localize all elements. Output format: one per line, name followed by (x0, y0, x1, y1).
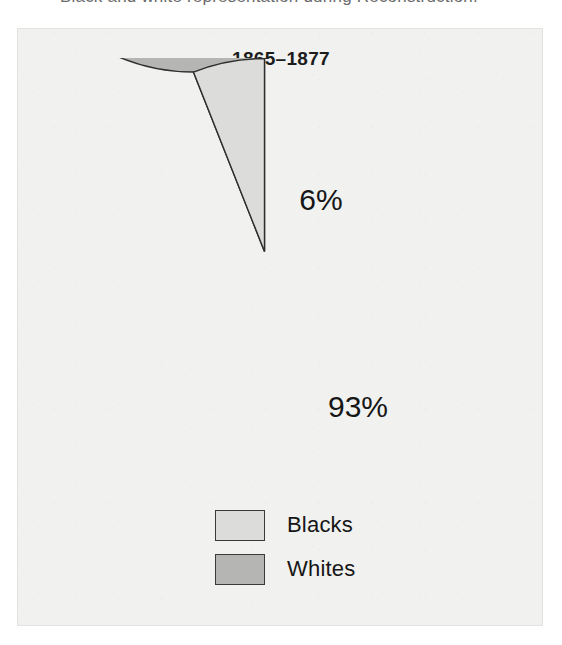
figure-caption-text: Black and white representation during Re… (60, 0, 478, 7)
legend-swatch-whites (215, 554, 265, 585)
pie-label-whites: 93% (328, 390, 388, 423)
pie-slice-blacks[interactable] (193, 59, 264, 252)
legend-label-whites: Whites (287, 556, 355, 582)
pie-chart-svg: 6% 93% (71, 58, 458, 445)
figure-caption-cropped: Black and white representation during Re… (0, 0, 562, 15)
pie-label-blacks: 6% (299, 183, 342, 216)
pie-chart: 6% 93% (71, 58, 458, 445)
legend-item-whites[interactable]: Whites (215, 547, 405, 591)
legend-swatch-blacks (215, 510, 265, 541)
legend-item-blacks[interactable]: Blacks (215, 503, 405, 547)
chart-legend: Blacks Whites (215, 503, 405, 591)
chart-panel: 1865–1877 6% 93% Blacks Whites (17, 28, 543, 626)
legend-label-blacks: Blacks (287, 512, 353, 538)
